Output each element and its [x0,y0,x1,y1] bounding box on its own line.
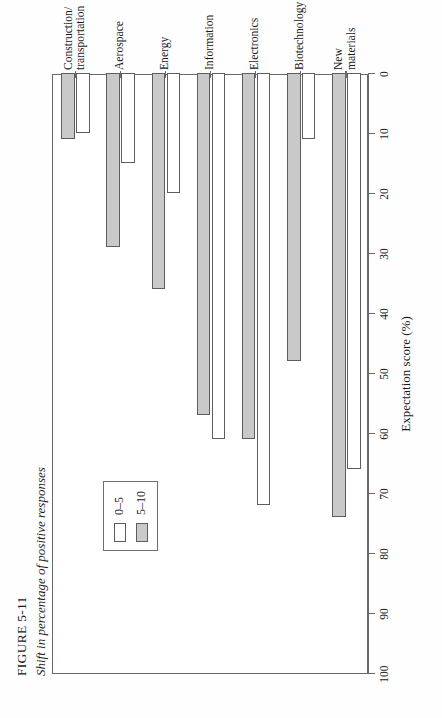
bar-0-5 [212,73,226,439]
value-tick-label: 80 [378,548,390,560]
bar-0-5 [257,73,271,505]
category-label-line: transportation [75,4,87,70]
category-label: Aerospace [114,4,126,70]
legend-item-0-5: 0–5 [111,491,128,542]
bar-5-10 [332,73,346,517]
bar-group [143,75,188,673]
value-axis-title: Expectation score (%) [398,74,414,674]
bar-5-10 [152,73,166,289]
legend-swatch-0-5-icon [114,523,126,542]
value-tick-label: 100 [378,665,390,682]
category-tick [75,71,76,78]
value-tick [368,73,375,74]
value-tick [368,433,375,434]
legend-label-0-5: 0–5 [112,497,127,515]
value-tick [368,193,375,194]
value-tick-label: 0 [378,71,390,77]
value-tick [368,553,375,554]
value-tick [368,253,375,254]
value-tick-label: 40 [378,308,390,320]
value-axis: 1009080706050403020100 [368,74,369,674]
value-tick [368,673,375,674]
category-tick [165,71,166,78]
value-tick-label: 70 [378,488,390,500]
value-tick-label: 10 [378,128,390,140]
legend-swatch-5-10-icon [136,523,148,542]
bar-5-10 [106,73,120,247]
bar-5-10 [242,73,256,439]
category-label: Electronics [249,4,261,70]
figure-page: FIGURE 5-11 Shift in percentage of posit… [0,0,442,718]
category-tick [300,71,301,78]
legend-item-5-10: 5–10 [133,491,150,542]
category-tick [120,71,121,78]
category-label-line: Biotechnology [294,4,306,70]
bar-group [324,75,369,673]
value-tick [368,493,375,494]
value-tick [368,613,375,614]
category-label: Energy [159,4,171,70]
category-label: Construction/transportation [62,4,87,70]
category-axis-labels: New materialsBiotechnologyElectronicsInf… [52,4,368,70]
category-label: Information [204,4,216,70]
value-tick [368,373,375,374]
chart-legend: 0–5 5–10 [103,481,158,551]
figure-number: FIGURE 5-11 [14,116,30,676]
legend-label-5-10: 5–10 [134,491,149,515]
bar-0-5 [347,73,361,469]
rotated-figure-stage: FIGURE 5-11 Shift in percentage of posit… [0,0,442,718]
value-tick [368,133,375,134]
category-tick [210,71,211,78]
value-tick [368,313,375,314]
value-tick-label: 90 [378,608,390,620]
category-label-line: Aerospace [114,4,126,70]
bar-5-10 [197,73,211,415]
bar-0-5 [121,73,135,163]
plot-frame: 0–5 5–10 [52,74,368,674]
value-tick-label: 50 [378,368,390,380]
category-label: New materials [333,4,358,70]
value-tick-label: 20 [378,188,390,200]
bar-group [188,75,233,673]
bar-5-10 [61,73,75,139]
bar-5-10 [287,73,301,361]
bar-group [53,75,98,673]
figure-titles: FIGURE 5-11 Shift in percentage of posit… [14,116,49,676]
category-label-line: Information [204,4,216,70]
category-label-line: Energy [159,4,171,70]
category-tick [345,71,346,78]
bar-group [234,75,279,673]
value-tick-label: 30 [378,248,390,260]
figure-caption: Shift in percentage of positive response… [33,116,49,676]
category-label: Biotechnology [294,4,306,70]
plot-area [53,75,367,673]
bar-0-5 [167,73,181,193]
bar-0-5 [302,73,316,139]
bar-0-5 [76,73,90,133]
category-label-line: New materials [333,4,358,70]
bar-group [98,75,143,673]
category-tick [255,71,256,78]
category-label-line: Electronics [249,4,261,70]
value-tick-label: 60 [378,428,390,440]
bar-group [279,75,324,673]
